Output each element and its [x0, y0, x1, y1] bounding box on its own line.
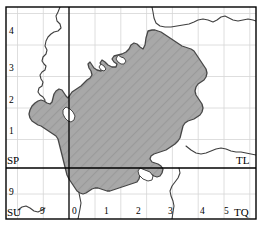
- easting-tick-9: 9: [40, 207, 45, 217]
- northing-tick-2: 2: [9, 96, 14, 106]
- easting-tick-1: 1: [104, 207, 109, 217]
- easting-tick-3: 3: [168, 207, 173, 217]
- northing-tick-9: 9: [9, 188, 14, 198]
- square-label-su: SU: [7, 207, 21, 218]
- square-label-tq: TQ: [234, 207, 249, 218]
- northing-tick-3: 3: [9, 64, 14, 74]
- northing-tick-1: 1: [9, 127, 14, 137]
- northing-tick-4: 4: [9, 27, 14, 37]
- easting-tick-2: 2: [136, 207, 141, 217]
- easting-tick-4: 4: [200, 207, 205, 217]
- easting-tick-0: 0: [72, 207, 77, 217]
- square-label-tl: TL: [236, 155, 249, 166]
- map-canvas: [0, 0, 262, 226]
- square-label-sp: SP: [7, 155, 19, 166]
- map-container: SP TL SU TQ 4 3 2 1 9 9 0 1 2 3 4 5: [0, 0, 262, 226]
- easting-tick-5: 5: [224, 207, 229, 217]
